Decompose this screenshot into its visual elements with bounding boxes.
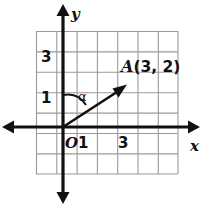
y-axis-tick-label-3: 3 bbox=[41, 48, 51, 66]
x-axis-tick-label-1: 1 bbox=[78, 134, 88, 152]
angle-label-group: α bbox=[78, 89, 87, 104]
coordinate-plane-svg: 3 1 O 1 3 y x α A(3, 2) bbox=[0, 0, 212, 208]
y-axis-arrow-down-icon bbox=[57, 192, 70, 204]
x-axis-arrow-right-icon bbox=[188, 121, 200, 134]
point-a-label-group: A(3, 2) bbox=[119, 57, 180, 76]
grid-lines bbox=[36, 31, 178, 174]
vector-oa-arrowhead-icon bbox=[113, 85, 128, 98]
angle-alpha-label: α bbox=[78, 89, 87, 104]
point-a-label: A(3, 2) bbox=[119, 57, 180, 76]
x-axis-name-label: x bbox=[189, 137, 200, 155]
y-axis-arrow-up-icon bbox=[57, 4, 70, 16]
y-axis-tick-label-1: 1 bbox=[41, 89, 51, 107]
point-a-coords: (3, 2) bbox=[133, 58, 180, 76]
coordinate-plane-figure: 3 1 O 1 3 y x α A(3, 2) bbox=[0, 0, 212, 208]
x-axis-arrow-left-icon bbox=[2, 121, 14, 134]
point-a-letter: A bbox=[119, 57, 133, 76]
origin-label: O bbox=[65, 134, 78, 152]
axis-names: y x bbox=[70, 5, 200, 155]
y-axis-name-label: y bbox=[70, 5, 81, 23]
x-axis-tick-label-3: 3 bbox=[118, 134, 128, 152]
